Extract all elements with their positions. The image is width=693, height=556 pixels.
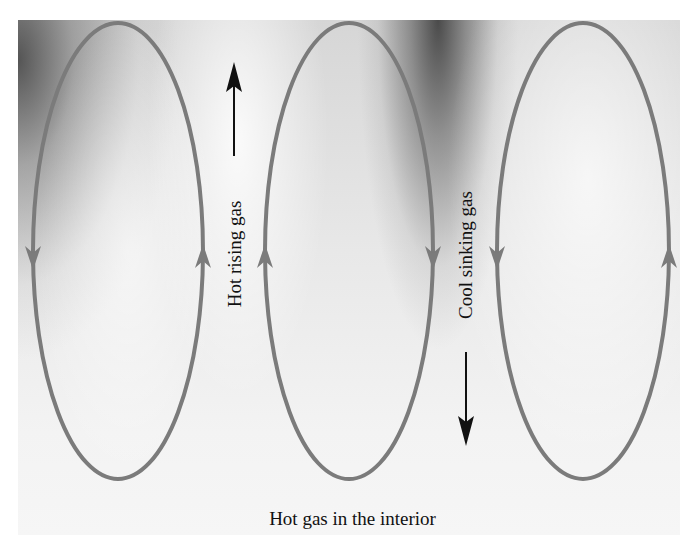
middle-cell-loop	[257, 23, 441, 479]
convection-diagram: Hot rising gas Cool sinking gas Hot gas …	[0, 0, 693, 556]
interior-caption: Hot gas in the interior	[0, 508, 693, 530]
cool-sinking-gas-label: Cool sinking gas	[455, 180, 477, 330]
hot-rising-gas-label: Hot rising gas	[224, 189, 246, 319]
right-cell-loop	[489, 23, 677, 479]
sinking-arrow-icon	[458, 352, 474, 446]
rising-arrow-icon	[226, 62, 242, 156]
left-cell-loop	[25, 23, 211, 479]
convection-loops	[0, 0, 693, 556]
